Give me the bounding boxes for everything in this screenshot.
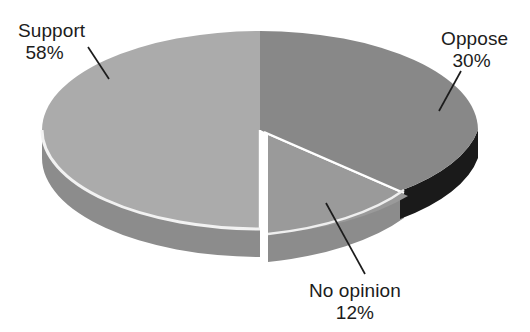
slice-label-oppose-value: 30% [441,50,508,72]
slice-label-support-value: 58% [18,42,85,64]
slice-label-support: Support 58% [18,20,85,65]
slice-label-support-name: Support [18,20,85,42]
slice-label-no-opinion-name: No opinion [309,280,401,302]
slice-label-no-opinion: No opinion 12% [309,280,401,325]
pie-chart: Support 58% Oppose 30% No opinion 12% [0,0,530,332]
slice-label-no-opinion-value: 12% [309,302,401,324]
slice-label-oppose-name: Oppose [441,28,508,50]
slice-label-oppose: Oppose 30% [441,28,508,73]
